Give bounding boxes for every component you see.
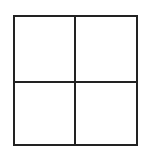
grid-cell-bottom-left bbox=[15, 83, 74, 144]
diagram-canvas bbox=[0, 0, 148, 152]
grid-cell-top-right bbox=[76, 17, 136, 81]
grid-cell-top-left bbox=[15, 17, 74, 81]
grid-cell-bottom-right bbox=[76, 83, 136, 144]
